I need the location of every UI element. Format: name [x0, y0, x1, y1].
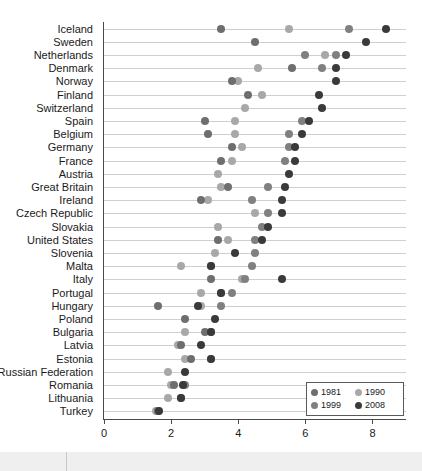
data-point — [332, 51, 340, 59]
y-axis-label-russian-federation: Russian Federation — [0, 366, 93, 377]
data-point — [164, 394, 172, 402]
row-gridline — [104, 345, 406, 346]
row-gridline — [104, 187, 406, 188]
data-point — [382, 25, 390, 33]
data-point — [214, 236, 222, 244]
data-point — [181, 328, 189, 336]
legend-label: 1981 — [321, 388, 341, 397]
y-axis-label-estonia: Estonia — [56, 353, 93, 364]
data-point — [214, 170, 222, 178]
data-point — [258, 91, 266, 99]
legend-item-1981[interactable]: 1981 — [311, 386, 355, 399]
data-point — [278, 209, 286, 217]
data-point — [251, 249, 259, 257]
y-axis-label-slovakia: Slovakia — [51, 221, 93, 232]
y-axis-label-turkey: Turkey — [60, 406, 93, 417]
data-point — [278, 196, 286, 204]
y-axis-category-labels: IcelandSwedenNetherlandsDenmarkNorwayFin… — [0, 22, 99, 419]
row-gridline — [104, 121, 406, 122]
data-point — [228, 77, 236, 85]
row-gridline — [104, 134, 406, 135]
legend-item-1990[interactable]: 1990 — [355, 386, 399, 399]
data-point — [248, 196, 256, 204]
data-point — [264, 209, 272, 217]
x-tick-label-0: 0 — [101, 427, 107, 439]
data-point — [154, 302, 162, 310]
y-axis-label-netherlands: Netherlands — [34, 50, 93, 61]
page-footer-band — [0, 452, 422, 471]
legend-item-1999[interactable]: 1999 — [311, 399, 355, 412]
data-point — [181, 315, 189, 323]
y-axis-label-hungary: Hungary — [51, 300, 93, 311]
data-point — [264, 183, 272, 191]
row-gridline — [104, 29, 406, 30]
data-point — [228, 289, 236, 297]
data-point — [258, 236, 266, 244]
data-point — [332, 64, 340, 72]
y-axis-label-latvia: Latvia — [64, 340, 93, 351]
data-point — [217, 25, 225, 33]
y-axis-label-bulgaria: Bulgaria — [53, 327, 93, 338]
y-axis-label-belgium: Belgium — [53, 129, 93, 140]
y-axis-label-portugal: Portugal — [52, 287, 93, 298]
y-axis-label-germany: Germany — [48, 142, 93, 153]
data-point — [251, 38, 259, 46]
data-point — [285, 170, 293, 178]
data-point — [207, 262, 215, 270]
y-axis-label-malta: Malta — [66, 261, 93, 272]
y-axis-label-switzerland: Switzerland — [36, 102, 93, 113]
data-point — [305, 117, 313, 125]
data-point — [194, 302, 202, 310]
data-point — [177, 341, 185, 349]
legend-label: 2008 — [365, 401, 385, 410]
data-point — [231, 249, 239, 257]
x-tick-label-6: 6 — [302, 427, 308, 439]
data-point — [228, 157, 236, 165]
x-tick — [171, 419, 172, 424]
legend-item-2008[interactable]: 2008 — [355, 399, 399, 412]
legend-label: 1990 — [365, 388, 385, 397]
y-axis-label-czech-republic: Czech Republic — [16, 208, 93, 219]
data-point — [318, 104, 326, 112]
data-point — [238, 143, 246, 151]
data-point — [244, 91, 252, 99]
data-point — [278, 275, 286, 283]
data-point — [207, 275, 215, 283]
data-point — [207, 355, 215, 363]
y-axis-label-slovenia: Slovenia — [51, 248, 93, 259]
y-axis-label-iceland: Iceland — [58, 23, 93, 34]
x-tick — [305, 419, 306, 424]
data-point — [291, 157, 299, 165]
x-tick — [372, 419, 373, 424]
data-point — [204, 130, 212, 138]
row-gridline — [104, 293, 406, 294]
data-point — [301, 51, 309, 59]
data-point — [241, 104, 249, 112]
y-axis-label-romania: Romania — [49, 380, 93, 391]
y-axis-label-united-states: United States — [27, 234, 93, 245]
y-axis-label-italy: Italy — [73, 274, 93, 285]
data-point — [179, 381, 187, 389]
data-point — [164, 368, 172, 376]
x-axis-line — [103, 419, 406, 420]
y-axis-label-poland: Poland — [59, 314, 93, 325]
data-point — [187, 355, 195, 363]
data-point — [321, 51, 329, 59]
row-gridline — [104, 174, 406, 175]
y-axis-label-lithuania: Lithuania — [48, 393, 93, 404]
data-point — [298, 130, 306, 138]
x-tick-label-2: 2 — [168, 427, 174, 439]
row-gridline — [104, 332, 406, 333]
data-point — [288, 64, 296, 72]
row-gridline — [104, 81, 406, 82]
page-footer-divider — [66, 452, 67, 471]
row-gridline — [104, 55, 406, 56]
data-point — [281, 183, 289, 191]
y-axis-label-spain: Spain — [65, 116, 93, 127]
data-point — [281, 157, 289, 165]
data-point — [248, 262, 256, 270]
row-gridline — [104, 108, 406, 109]
data-point — [211, 315, 219, 323]
y-axis-label-finland: Finland — [57, 89, 93, 100]
data-point — [177, 394, 185, 402]
